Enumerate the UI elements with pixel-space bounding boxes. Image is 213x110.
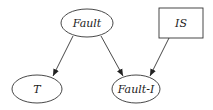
node-fault-i-label: Fault-I — [117, 83, 155, 96]
edge-fault-to-t — [53, 36, 73, 76]
diagram-canvas: Fault IS T Fault-I — [0, 0, 213, 110]
node-fault-label: Fault — [72, 17, 102, 30]
node-t: T — [12, 75, 62, 103]
node-is: IS — [159, 8, 203, 38]
node-fault: Fault — [61, 9, 113, 37]
edge-is-to-fault-i — [150, 38, 169, 76]
edge-fault-to-fault-i — [101, 36, 123, 76]
node-fault-i: Fault-I — [112, 75, 160, 103]
node-is-label: IS — [174, 17, 187, 30]
